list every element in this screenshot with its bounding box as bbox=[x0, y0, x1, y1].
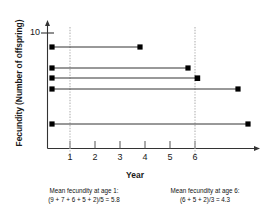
end-marker bbox=[137, 44, 142, 49]
start-marker bbox=[49, 86, 54, 91]
lifespan-line-individual-5 bbox=[49, 121, 250, 126]
end-marker bbox=[235, 86, 240, 91]
start-marker bbox=[49, 65, 54, 70]
x-tick-label-6: 6 bbox=[188, 152, 202, 162]
x-tick-label-5: 5 bbox=[163, 152, 177, 162]
caption-age-1-line2: (9 + 7 + 6 + 5 + 2)/5 = 5.8 bbox=[20, 195, 148, 204]
start-marker bbox=[49, 75, 54, 80]
caption-age-6-line2: (6 + 5 + 2)/3 = 4.3 bbox=[142, 195, 268, 204]
x-tick-label-4: 4 bbox=[138, 152, 152, 162]
end-marker bbox=[245, 121, 250, 126]
lifespan-line-individual-4 bbox=[49, 86, 240, 91]
start-marker bbox=[49, 121, 54, 126]
caption-age-1-line1: Mean fecundity at age 1: bbox=[20, 186, 148, 195]
fecundity-chart-figure: Fecundity (Number of offspring) 10 bbox=[0, 0, 270, 212]
x-tick-label-1: 1 bbox=[63, 152, 77, 162]
x-axis-arrow bbox=[254, 146, 260, 151]
end-marker bbox=[185, 65, 190, 70]
y-axis-arrow bbox=[45, 20, 50, 26]
caption-age-1: Mean fecundity at age 1: (9 + 7 + 6 + 5 … bbox=[20, 186, 148, 204]
x-tick-label-2: 2 bbox=[88, 152, 102, 162]
caption-age-6-line1: Mean fecundity at age 6: bbox=[142, 186, 268, 195]
x-tick-label-3: 3 bbox=[113, 152, 127, 162]
x-axis-label: Year bbox=[0, 170, 270, 180]
start-marker bbox=[49, 44, 54, 49]
lifespan-line-individual-3 bbox=[49, 75, 200, 81]
caption-age-6: Mean fecundity at age 6: (6 + 5 + 2)/3 =… bbox=[142, 186, 268, 204]
chart-canvas bbox=[0, 0, 270, 212]
end-marker bbox=[195, 75, 201, 81]
lifespan-line-individual-1 bbox=[49, 44, 142, 49]
